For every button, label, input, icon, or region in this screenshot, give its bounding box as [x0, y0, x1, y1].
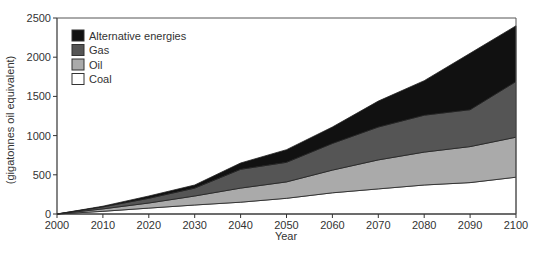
- y-tick-label: 1500: [27, 90, 51, 102]
- y-tick-label: 2000: [27, 51, 51, 63]
- x-tick-label: 2070: [366, 219, 390, 231]
- legend: Alternative energiesGasOilCoal: [72, 30, 187, 86]
- y-tick-label: 500: [33, 169, 51, 181]
- x-tick-label: 2000: [45, 219, 69, 231]
- legend-label: Gas: [89, 44, 110, 56]
- legend-swatch: [72, 30, 84, 41]
- x-tick-label: 2040: [228, 219, 252, 231]
- x-tick-label: 2030: [182, 219, 206, 231]
- legend-swatch: [72, 74, 84, 85]
- stacked-area-chart: 2000201020202030204020502060207020802090…: [0, 0, 546, 253]
- x-tick-label: 2060: [320, 219, 344, 231]
- x-tick-label: 2080: [412, 219, 436, 231]
- legend-label: Coal: [89, 73, 112, 85]
- x-tick-label: 2020: [137, 219, 161, 231]
- x-axis-title: Year: [275, 230, 298, 242]
- legend-swatch: [72, 59, 84, 70]
- y-tick-label: 0: [45, 208, 51, 220]
- y-tick-label: 1000: [27, 130, 51, 142]
- y-tick-label: 2500: [27, 12, 51, 24]
- plot-areas: [57, 26, 516, 214]
- legend-label: Alternative energies: [89, 30, 187, 42]
- x-tick-label: 2010: [91, 219, 115, 231]
- x-tick-label: 2100: [504, 219, 528, 231]
- legend-label: Oil: [89, 59, 102, 71]
- x-axis-ticks: 2000201020202030204020502060207020802090…: [45, 214, 528, 231]
- y-axis-title: (gigatonnes oil equivalent): [4, 56, 16, 184]
- legend-swatch: [72, 45, 84, 56]
- x-tick-label: 2090: [458, 219, 482, 231]
- y-axis-ticks: 05001000150020002500: [27, 12, 57, 220]
